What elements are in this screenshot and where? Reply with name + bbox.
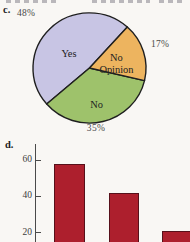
pie-slice-label: No: [90, 99, 103, 110]
y-axis-tick-label: 60: [12, 155, 32, 165]
bar-chart-plot: 604020: [0, 140, 190, 242]
bar-3: [162, 231, 190, 242]
figure-page: c. 48% 17% 35% YesNoNoOpinion d. 604020: [0, 0, 190, 242]
pie-percent-no-opinion: 17%: [151, 40, 169, 50]
cropped-text-fragment: [92, 0, 150, 3]
bar-1: [54, 164, 85, 242]
part-c-label: c.: [3, 5, 10, 16]
y-axis-tick: [36, 160, 41, 161]
y-axis-tick: [36, 232, 41, 233]
pie-chart: YesNoNoOpinion: [30, 10, 149, 126]
y-axis-tick: [36, 196, 41, 197]
y-axis-tick-label: 40: [12, 191, 32, 201]
bar-2: [109, 193, 140, 242]
pie-slice-label: Yes: [61, 48, 76, 59]
cropped-text-fragment: [159, 0, 186, 3]
y-axis-tick-label: 20: [12, 228, 32, 238]
cropped-text-fragment: [6, 0, 60, 3]
